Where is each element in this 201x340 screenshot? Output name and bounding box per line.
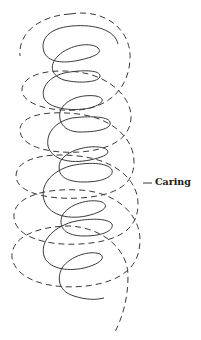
helix-diagram <box>0 0 201 340</box>
caring-label: Caring <box>155 176 191 187</box>
inner-solid-coil <box>43 26 118 300</box>
